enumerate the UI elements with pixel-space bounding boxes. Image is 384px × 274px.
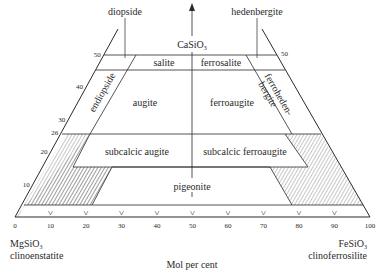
x-axis-label: Mol per cent [166, 259, 217, 270]
left-tick-label: 20 [41, 148, 49, 156]
label-apex: CaSiO3 [177, 39, 207, 51]
field-subcalcic-ferroaugite: subcalcic ferroaugite [203, 146, 287, 157]
fesio3-formula: FeSiO3 [338, 238, 367, 250]
left-tick-label: 30 [58, 116, 66, 124]
base-tick-mark [297, 211, 301, 215]
left-tick-label: 40 [76, 83, 84, 91]
base-tick-label: 70 [260, 222, 268, 230]
right-tick-50: 50 [281, 50, 289, 58]
base-tick-label: 10 [47, 222, 55, 230]
base-tick-label: 90 [331, 222, 339, 230]
mgsio3-formula: MgSiO3 [10, 238, 42, 250]
base-tick-label: 20 [83, 222, 91, 230]
clinoenstatite-label: clinoenstatite [10, 250, 64, 261]
clinoferrosilite-label: clinoferrosilite [308, 250, 367, 261]
hatched-region-left-main [24, 134, 112, 205]
base-tick-mark [155, 211, 159, 215]
label-hedenbergite: hedenbergite [231, 6, 283, 17]
base-tick-label: 40 [154, 222, 162, 230]
field-subcalcic-augite: subcalcic augite [105, 146, 170, 157]
field-pigeonite: pigeonite [173, 181, 211, 192]
arrow-up-icon [189, 3, 195, 11]
base-tick-mark [226, 211, 230, 215]
base-tick-mark [84, 211, 88, 215]
left-tick-label: 10 [23, 181, 31, 189]
base-tick-label: 60 [225, 222, 233, 230]
field-augite: augite [133, 97, 158, 108]
left-tick-label: 50 [94, 51, 102, 59]
base-tick-mark [49, 211, 53, 215]
base-tick-mark [120, 211, 124, 215]
field-endiopside: endiopside [86, 70, 117, 114]
base-ticks: 0102030405060708090100 [13, 211, 376, 230]
field-salite: salite [153, 57, 175, 68]
hatched-region-right [270, 134, 363, 205]
base-tick-mark [262, 211, 266, 215]
label-diopside: diopside [108, 6, 142, 17]
field-ferroaugite: ferroaugite [210, 97, 254, 108]
base-tick-label: 100 [365, 222, 376, 230]
base-tick-mark [191, 211, 195, 215]
base-tick-label: 50 [189, 222, 197, 230]
base-tick-label: 0 [13, 222, 17, 230]
base-tick-label: 30 [118, 222, 126, 230]
field-ferrosalite: ferrosalite [201, 57, 242, 68]
pyroxene-diagram: 0102030405060708090100 102026304050 diop… [0, 0, 384, 274]
left-tick-label: 26 [51, 129, 59, 137]
base-tick-label: 80 [296, 222, 304, 230]
base-tick-mark [333, 211, 337, 215]
